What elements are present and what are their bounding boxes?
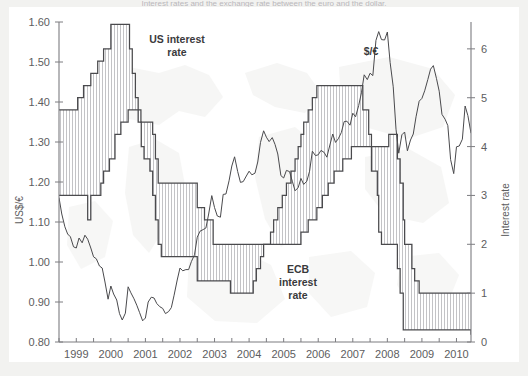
- ecb-interest-rate-label-line1: ECB: [287, 263, 310, 275]
- chart-canvas: 0.800.901.001.101.201.301.401.501.60 012…: [9, 7, 519, 362]
- right-tick-label: 5: [481, 92, 487, 104]
- x-tick-label: 2003: [202, 348, 226, 360]
- right-tick-label: 6: [481, 43, 487, 55]
- x-tick-label: 2001: [133, 348, 157, 360]
- x-tick-label: 2007: [341, 348, 365, 360]
- left-tick-label: 1.10: [29, 216, 50, 228]
- us-interest-rate-label-line1: US interest: [149, 33, 205, 45]
- x-tick-label: 2005: [271, 348, 295, 360]
- left-tick-label: 1.00: [29, 256, 50, 268]
- figure-panel: 0.800.901.001.101.201.301.401.501.60 012…: [9, 7, 519, 362]
- right-tick-label: 3: [481, 189, 487, 201]
- x-tick-label: 2000: [99, 348, 123, 360]
- x-tick-label: 2010: [444, 348, 468, 360]
- left-tick-label: 0.80: [29, 336, 50, 348]
- exchange-rate-label: $/€: [364, 45, 379, 57]
- right-tick-label: 2: [481, 238, 487, 250]
- left-tick-label: 1.60: [29, 16, 50, 28]
- left-tick-label: 0.90: [29, 296, 50, 308]
- x-tick-label: 2006: [306, 348, 330, 360]
- right-tick-label: 4: [481, 141, 487, 153]
- x-tick-label: 2009: [410, 348, 434, 360]
- right-tick-label: 0: [481, 336, 487, 348]
- left-tick-label: 1.20: [29, 176, 50, 188]
- us-interest-rate-label-line2: rate: [167, 46, 186, 58]
- figure-caption: Interest rates and the exchange rate bet…: [0, 0, 528, 7]
- interest-rate-exchange-rate-chart: 0.800.901.001.101.201.301.401.501.60 012…: [9, 7, 519, 362]
- left-tick-label: 1.30: [29, 136, 50, 148]
- x-tick-label: 1999: [64, 348, 88, 360]
- ecb-interest-rate-label-line3: rate: [288, 289, 307, 301]
- left-tick-label: 1.50: [29, 56, 50, 68]
- x-tick-label: 2008: [375, 348, 399, 360]
- x-tick-label: 2002: [168, 348, 192, 360]
- left-tick-label: 1.40: [29, 96, 50, 108]
- ecb-interest-rate-label-line2: interest: [279, 276, 317, 288]
- x-tick-label: 2004: [237, 348, 261, 360]
- right-tick-label: 1: [481, 287, 487, 299]
- left-axis-ticks: 0.800.901.001.101.201.301.401.501.60: [29, 16, 63, 348]
- x-axis-ticks: 1999200020012002200320042005200620072008…: [59, 338, 469, 360]
- right-axis-title: Interest rate: [500, 183, 511, 237]
- left-axis-title: US$/€: [14, 196, 25, 224]
